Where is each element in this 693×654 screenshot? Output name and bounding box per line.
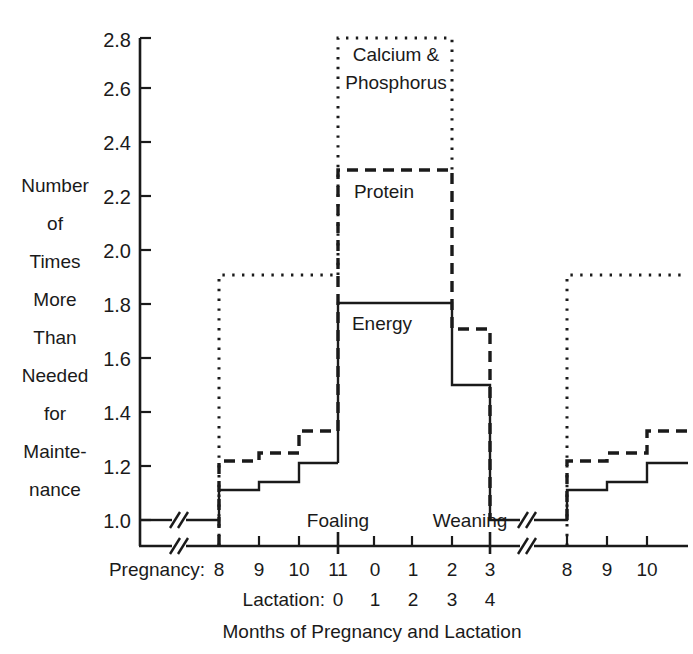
y-tick-label-1-6: 1.6 bbox=[103, 348, 131, 370]
y-axis-title-line-8: Mainte- bbox=[23, 441, 86, 462]
lactation-label-3: 3 bbox=[447, 589, 458, 610]
y-tick-label-1-2: 1.2 bbox=[103, 456, 131, 478]
series-label-protein: Protein bbox=[354, 181, 414, 202]
y-axis-title-line-2: of bbox=[47, 213, 64, 234]
pregnancy-label-next-8: 8 bbox=[562, 559, 573, 580]
y-tick-label-1-8: 1.8 bbox=[103, 294, 131, 316]
pregnancy-label-next-9: 9 bbox=[602, 559, 613, 580]
y-tick-label-1-0: 1.0 bbox=[103, 510, 131, 532]
pregnancy-label-10: 10 bbox=[288, 559, 309, 580]
x-tick-group bbox=[219, 532, 647, 554]
y-axis-title-line-5: Than bbox=[33, 327, 76, 348]
x-axis-break-left bbox=[170, 538, 188, 554]
y-axis-title-line-7: for bbox=[44, 403, 67, 424]
y-tick-group: 1.0 1.2 1.4 1.6 1.8 2.0 2.2 2.4 2.6 2.8 bbox=[103, 29, 151, 532]
lactation-label-2: 2 bbox=[408, 589, 419, 610]
pregnancy-label-3: 3 bbox=[485, 559, 496, 580]
lactation-row-label: Lactation: bbox=[243, 589, 325, 610]
y-tick-label-2-8: 2.8 bbox=[103, 29, 131, 51]
lactation-tick-labels: Lactation: 0 1 2 3 4 bbox=[243, 589, 496, 610]
chart-canvas: Number of Times More Than Needed for Mai… bbox=[0, 0, 693, 654]
y-tick-label-1-4: 1.4 bbox=[103, 402, 131, 424]
y-tick-label-2-6: 2.6 bbox=[103, 78, 131, 100]
pregnancy-label-0: 0 bbox=[370, 559, 381, 580]
y-axis-title-line-9: nance bbox=[29, 479, 81, 500]
x-axis-title: Months of Pregnancy and Lactation bbox=[223, 621, 522, 642]
y-tick-label-2-2: 2.2 bbox=[103, 186, 131, 208]
y-axis-title-line-4: More bbox=[33, 289, 76, 310]
series-break-right bbox=[518, 512, 536, 528]
series-label-calcium-line-1: Calcium & bbox=[353, 44, 440, 65]
lactation-label-0: 0 bbox=[333, 589, 344, 610]
pregnancy-tick-labels: Pregnancy: 8 9 10 11 0 1 2 3 8 9 10 bbox=[109, 559, 658, 580]
series-inline-labels: Calcium & Phosphorus Protein Energy bbox=[345, 44, 446, 334]
pregnancy-label-11: 11 bbox=[328, 559, 348, 580]
pregnancy-label-next-10: 10 bbox=[636, 559, 657, 580]
pregnancy-label-8: 8 bbox=[214, 559, 225, 580]
lactation-label-4: 4 bbox=[485, 589, 496, 610]
series-label-energy: Energy bbox=[352, 313, 413, 334]
y-axis-title-line-6: Needed bbox=[22, 365, 89, 386]
x-axis-break-right bbox=[518, 538, 536, 554]
event-label-foaling: Foaling bbox=[307, 510, 369, 531]
y-axis-title-line-1: Number bbox=[21, 175, 89, 196]
series-protein bbox=[219, 170, 688, 546]
pregnancy-label-1: 1 bbox=[408, 559, 419, 580]
pregnancy-label-2: 2 bbox=[447, 559, 458, 580]
pregnancy-label-9: 9 bbox=[254, 559, 265, 580]
y-tick-label-2-0: 2.0 bbox=[103, 240, 131, 262]
y-axis-title-line-3: Times bbox=[29, 251, 80, 272]
chart-figure: Number of Times More Than Needed for Mai… bbox=[0, 0, 693, 654]
y-axis-title: Number of Times More Than Needed for Mai… bbox=[21, 175, 89, 500]
y-tick-label-2-4: 2.4 bbox=[103, 132, 131, 154]
lactation-label-1: 1 bbox=[370, 589, 381, 610]
pregnancy-row-label: Pregnancy: bbox=[109, 559, 205, 580]
series-label-calcium-line-2: Phosphorus bbox=[345, 72, 446, 93]
series-energy bbox=[140, 303, 688, 520]
series-break-left bbox=[170, 512, 188, 528]
